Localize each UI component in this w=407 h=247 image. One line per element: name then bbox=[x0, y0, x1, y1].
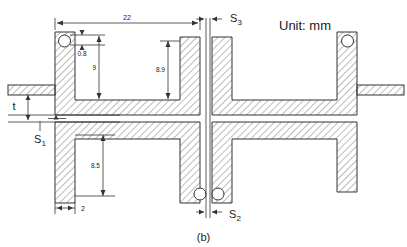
gap-label-s1: S1 bbox=[34, 133, 46, 148]
figure-caption: (b) bbox=[0, 231, 407, 243]
dimension-label-lower-left-depth: 8.5 bbox=[91, 162, 100, 169]
lower-left-channel bbox=[55, 122, 200, 203]
cross-section-drawing: 22 0.8 9 8.9 8 bbox=[0, 0, 407, 247]
upper-right-channel bbox=[212, 32, 357, 115]
gap-marker-s2 bbox=[196, 205, 222, 218]
dimension-plate-thickness bbox=[26, 95, 31, 120]
dimension-upper-left-depth bbox=[97, 36, 102, 99]
dimension-label-wall-thickness: 2 bbox=[81, 205, 85, 212]
gap-marker-s3 bbox=[196, 17, 222, 22]
lower-right-channel bbox=[212, 122, 357, 203]
dimension-label-plate-thickness: t bbox=[12, 100, 15, 112]
figure-container: 22 0.8 9 8.9 8 bbox=[0, 0, 407, 247]
dimension-label-overall-width: 22 bbox=[123, 14, 131, 21]
dimension-label-upper-left-depth: 9 bbox=[92, 64, 96, 71]
upper-right-stub bbox=[357, 85, 404, 95]
gap-label-s2: S2 bbox=[229, 208, 241, 223]
dimension-wall-thickness bbox=[55, 206, 75, 211]
dimension-label-upper-right-depth: 8.9 bbox=[156, 66, 165, 73]
unit-note-label: Unit: mm bbox=[279, 18, 331, 33]
dimension-label-top-small-gap: 0.8 bbox=[77, 50, 86, 57]
upper-left-stub bbox=[8, 85, 55, 95]
dimension-overall-width bbox=[57, 21, 198, 26]
gap-label-s3: S3 bbox=[230, 12, 242, 27]
upper-left-channel bbox=[55, 32, 200, 115]
